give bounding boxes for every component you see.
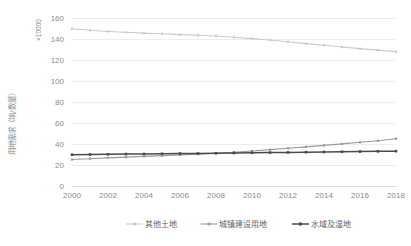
legend-label: 其他土地 [145,219,177,229]
data-point-marker [161,33,163,35]
data-point-marker [305,151,308,154]
legend-label: 水域及湿地 [311,219,351,229]
data-point-marker [125,31,127,33]
y-axis-unit-label: ×10000 [35,19,42,41]
data-point-marker [287,151,290,154]
data-point-marker [269,149,271,151]
data-point-marker [377,140,379,142]
y-tick-label: 160 [51,14,65,23]
data-point-marker [125,153,128,156]
data-point-marker [179,33,181,35]
y-axis-title: 用地需求（垧/数量） [7,89,17,155]
data-point-marker [251,152,254,155]
data-point-marker [341,46,343,48]
x-tick-label: 2006 [171,191,189,200]
x-tick-label: 2018 [387,191,405,200]
data-point-marker [125,156,127,158]
data-point-marker [215,152,218,155]
data-point-marker [71,153,74,156]
data-point-marker [107,157,109,159]
data-point-marker [143,153,146,156]
y-tick-label: 140 [51,35,65,44]
line-chart: 020406080100120140160 200020022004200620… [0,0,411,246]
data-point-marker [89,153,92,156]
data-point-marker [179,152,182,155]
data-point-marker [215,35,217,37]
data-point-marker [233,36,235,38]
x-tick-label: 2012 [279,191,297,200]
y-tick-label: 40 [55,140,64,149]
data-point-marker [323,44,325,46]
x-tick-label: 2016 [351,191,369,200]
data-point-marker [71,158,73,160]
data-point-marker [251,37,253,39]
data-point-marker [107,30,109,32]
legend-marker-swatch [299,223,302,226]
data-point-marker [269,39,271,41]
data-point-marker [377,49,379,51]
x-tick-label: 2014 [315,191,333,200]
chart-canvas: 020406080100120140160 200020022004200620… [0,0,411,246]
data-point-marker [395,51,397,53]
data-point-marker [197,34,199,36]
data-point-marker [395,150,398,153]
y-tick-label: 120 [51,56,65,65]
y-tick-label: 0 [60,182,65,191]
data-point-marker [305,146,307,148]
data-point-marker [359,150,362,153]
legend-marker-swatch [208,223,211,226]
data-point-marker [71,28,73,30]
data-point-marker [143,32,145,34]
y-tick-label: 80 [55,98,64,107]
data-point-marker [305,43,307,45]
data-point-marker [143,155,145,157]
data-point-marker [359,48,361,50]
data-point-marker [287,147,289,149]
data-point-marker [341,150,344,153]
x-tick-label: 2000 [63,191,81,200]
y-tick-label: 60 [55,119,64,128]
data-point-marker [197,152,200,155]
data-point-marker [89,158,91,160]
data-point-marker [269,151,272,154]
legend-label: 城镇建设用地 [219,219,267,229]
chart-legend: 其他土地城镇建设用地水域及湿地 [126,219,351,229]
data-point-marker [359,141,361,143]
x-tick-label: 2002 [99,191,117,200]
data-point-marker [395,138,397,140]
x-tick-label: 2008 [207,191,225,200]
data-point-marker [287,41,289,43]
x-tick-label: 2010 [243,191,261,200]
data-point-marker [107,153,110,156]
data-point-marker [233,152,236,155]
legend-marker-swatch [133,223,136,226]
data-point-marker [323,144,325,146]
data-point-marker [341,143,343,145]
data-point-marker [323,151,326,154]
data-point-marker [377,150,380,153]
data-point-marker [161,152,164,155]
x-tick-label: 2004 [135,191,153,200]
y-tick-label: 100 [51,77,65,86]
y-tick-label: 20 [55,161,64,170]
data-point-marker [89,29,91,31]
